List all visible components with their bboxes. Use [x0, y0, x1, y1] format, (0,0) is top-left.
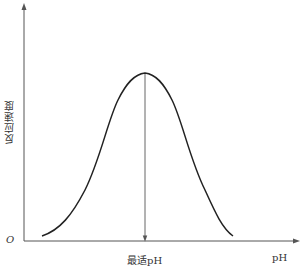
x-axis-label: pH — [272, 252, 287, 263]
optimum-ph-label: 最适pH — [127, 252, 162, 267]
reaction-rate-curve — [42, 73, 233, 236]
y-axis-label: 反应速度 — [2, 100, 17, 144]
chart-canvas — [0, 0, 302, 269]
origin-label: O — [6, 234, 14, 245]
